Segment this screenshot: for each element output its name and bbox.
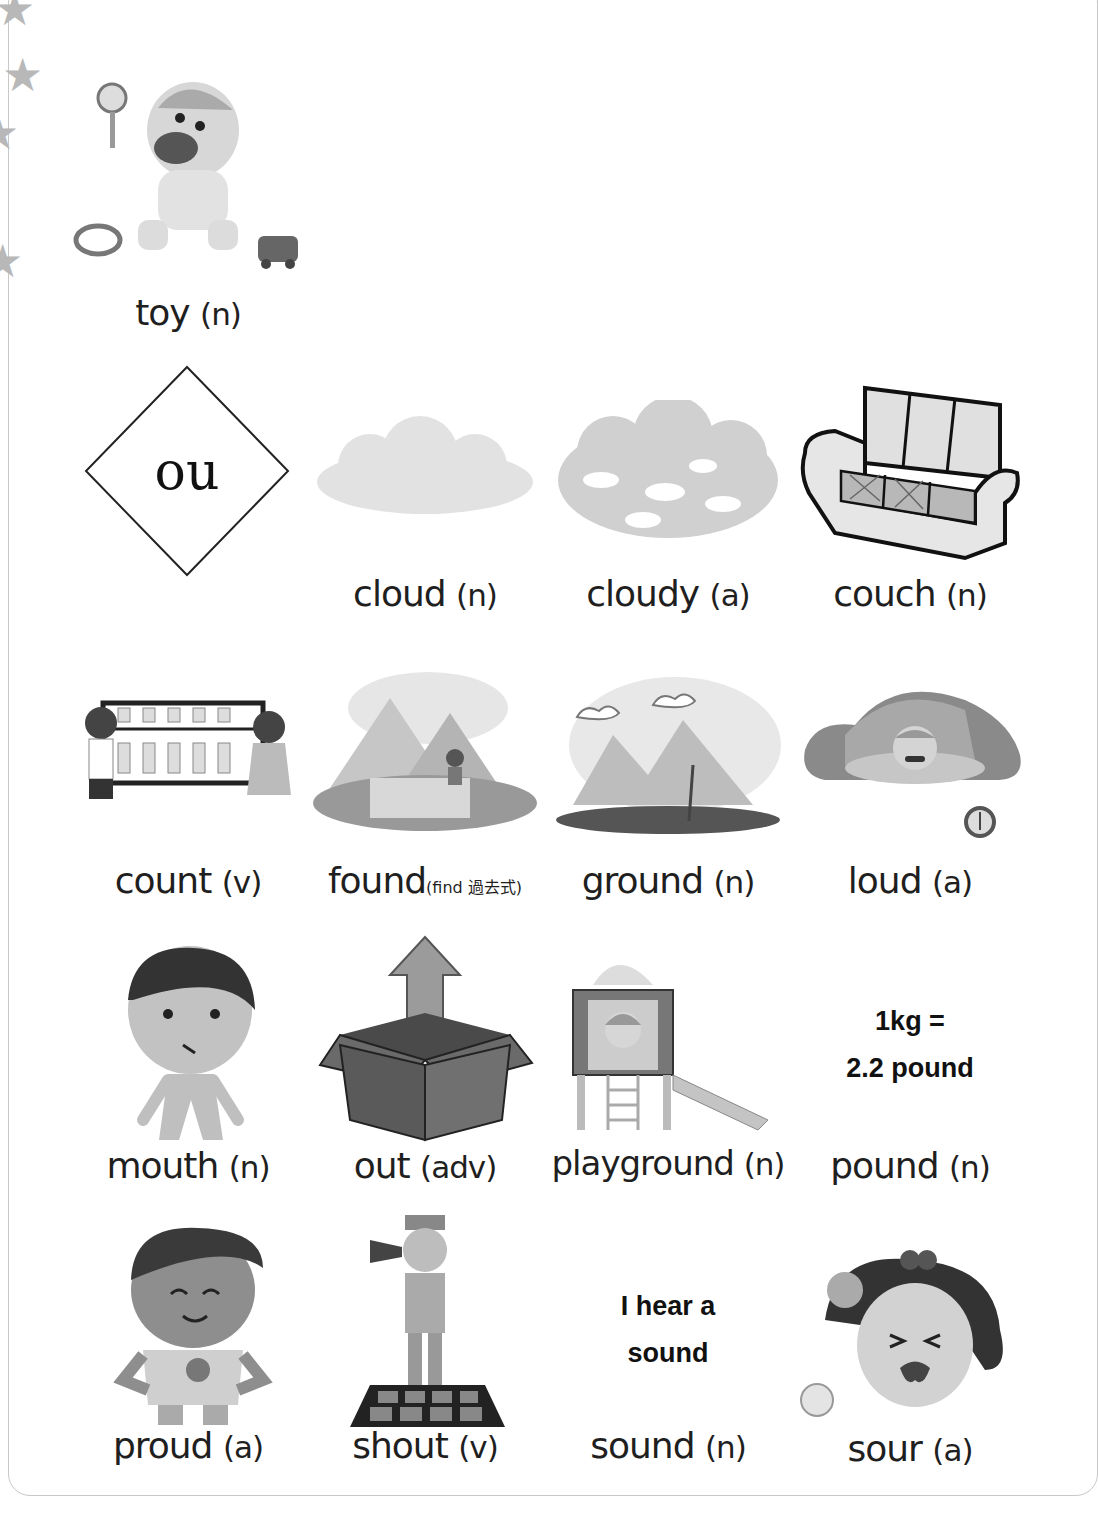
word-text: proud	[113, 1425, 213, 1466]
part-of-speech: (n)	[744, 1146, 785, 1182]
part-of-speech: (n)	[949, 1149, 990, 1185]
man-alarm-clock-illustration	[790, 670, 1030, 845]
vocab-card-pound: 1kg = 2.2 pound pound (n)	[790, 995, 1030, 1200]
part-of-speech: (v)	[458, 1429, 498, 1465]
vocab-card-playground: playground (n)	[548, 945, 788, 1200]
part-of-speech: (n)	[456, 577, 497, 613]
vocab-card-cloudy: cloudy (a)	[548, 395, 788, 635]
word-label: toy (n)	[68, 292, 308, 333]
word-text: sour	[847, 1428, 921, 1469]
vocab-card-toy: toy (n)	[68, 70, 308, 350]
vocab-card-sound: I hear a sound sound (n)	[548, 1280, 788, 1490]
vocab-card-count: count (v)	[68, 680, 308, 920]
part-of-speech: (adv)	[420, 1149, 496, 1185]
word-label: cloud (n)	[305, 573, 545, 614]
word-text: toy	[135, 292, 189, 333]
grammar-note: (find 過去式)	[426, 878, 522, 897]
cloudy-sky-illustration	[548, 395, 788, 555]
phonics-header-badge: ou	[84, 365, 290, 577]
part-of-speech: (a)	[223, 1429, 263, 1465]
star-icon: ★	[0, 110, 19, 156]
boy-mouth-illustration	[68, 940, 308, 1145]
star-icon: ★	[0, 0, 35, 32]
part-of-speech: (a)	[932, 864, 972, 900]
part-of-speech: (n)	[946, 577, 987, 613]
word-label: count (v)	[68, 860, 308, 901]
vocab-card-loud: loud (a)	[790, 670, 1030, 920]
part-of-speech: (n)	[705, 1429, 746, 1465]
vocab-card-proud: proud (a)	[68, 1220, 308, 1490]
couch-illustration	[790, 380, 1030, 565]
part-of-speech: (n)	[229, 1149, 270, 1185]
star-icon: ★	[2, 52, 43, 98]
vocab-card-found: found(find 過去式)	[305, 665, 545, 920]
boy-digging-pyramids-illustration	[305, 665, 545, 835]
word-label: shout (v)	[305, 1425, 545, 1466]
vocab-card-sour: sour (a)	[790, 1240, 1030, 1490]
part-of-speech: (a)	[710, 577, 750, 613]
word-text: shout	[352, 1425, 448, 1466]
star-icon: ★	[0, 238, 23, 284]
word-text: loud	[848, 860, 922, 901]
word-label: pound (n)	[790, 1145, 1030, 1186]
box-arrow-out-illustration	[305, 935, 545, 1145]
baby-toys-illustration	[68, 70, 308, 270]
vocab-card-cloud: cloud (n)	[305, 395, 545, 635]
word-label: sound (n)	[548, 1425, 788, 1466]
word-label: cloudy (a)	[548, 573, 788, 614]
playground-slide-illustration	[548, 945, 788, 1135]
word-label: playground (n)	[548, 1143, 788, 1183]
part-of-speech: (v)	[222, 864, 262, 900]
word-label: found(find 過去式)	[305, 860, 545, 901]
note-line: 1kg =	[875, 998, 945, 1045]
vocab-card-ground: ground (n)	[548, 675, 788, 920]
word-label: ground (n)	[548, 860, 788, 901]
word-label: sour (a)	[790, 1428, 1030, 1469]
word-label: mouth (n)	[68, 1145, 308, 1186]
man-megaphone-illustration	[305, 1205, 545, 1430]
word-label: loud (a)	[790, 860, 1030, 901]
cloud-illustration	[305, 395, 545, 545]
part-of-speech: (n)	[200, 296, 241, 332]
word-text: sound	[590, 1425, 694, 1466]
note-line: I hear a	[621, 1283, 716, 1330]
word-text: found	[328, 860, 426, 901]
part-of-speech: (n)	[713, 864, 754, 900]
note-line: sound	[628, 1330, 709, 1377]
word-text: cloudy	[586, 573, 699, 614]
note-line: 2.2 pound	[846, 1045, 974, 1092]
children-abacus-illustration	[68, 680, 308, 825]
word-text: out	[354, 1145, 410, 1186]
girl-sour-lemon-illustration	[790, 1240, 1030, 1420]
pound-conversion-note: 1kg = 2.2 pound	[790, 995, 1030, 1095]
word-text: ground	[582, 860, 703, 901]
vocab-card-couch: couch (n)	[790, 380, 1030, 635]
word-text: count	[115, 860, 212, 901]
vocab-card-mouth: mouth (n)	[68, 940, 308, 1200]
vocab-card-shout: shout (v)	[305, 1205, 545, 1490]
vocab-card-out: out (adv)	[305, 935, 545, 1200]
sound-example-note: I hear a sound	[548, 1280, 788, 1380]
word-label: out (adv)	[305, 1145, 545, 1186]
part-of-speech: (a)	[932, 1432, 972, 1468]
phonics-letters: ou	[84, 365, 290, 577]
proud-boy-ribbon-illustration	[68, 1220, 308, 1430]
word-text: couch	[833, 573, 935, 614]
word-label: couch (n)	[790, 573, 1030, 614]
word-label: proud (a)	[68, 1425, 308, 1466]
word-text: pound	[830, 1145, 938, 1186]
word-text: mouth	[106, 1145, 218, 1186]
ground-mountains-illustration	[548, 675, 788, 835]
word-text: cloud	[353, 573, 446, 614]
word-text: playground	[552, 1143, 734, 1183]
